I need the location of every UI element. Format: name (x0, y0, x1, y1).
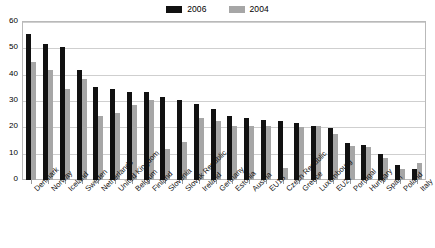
bar-group (258, 22, 275, 180)
bar-group (375, 22, 392, 180)
x-axis-label-cell: EU15 (258, 184, 275, 248)
x-axis-label-cell: Slovenia (157, 184, 174, 248)
x-axis-label-cell: Hungary (358, 184, 375, 248)
bar-2004 (65, 89, 70, 180)
bar-group (408, 22, 425, 180)
legend-item-2006: 2006 (166, 5, 206, 14)
chart-root: 2006 2004 0102030405060 DenmarkNorwayIce… (0, 0, 435, 248)
bar-group (90, 22, 107, 180)
bar-group (274, 22, 291, 180)
bar-group (341, 22, 358, 180)
bar-2004 (31, 62, 36, 180)
x-axis-labels: DenmarkNorwayIcelandSwedenNetherlandsUni… (23, 184, 425, 248)
bar-2004 (48, 70, 53, 180)
y-axis-tick-label: 30 (9, 96, 18, 104)
x-axis-label-cell: Netherlands (90, 184, 107, 248)
x-axis-label-cell: Denmark (23, 184, 40, 248)
legend-swatch-2006 (166, 6, 182, 13)
x-axis-label-cell: Estonia (224, 184, 241, 248)
bar-group (392, 22, 409, 180)
bar-group (107, 22, 124, 180)
x-axis-label-cell: Germany (207, 184, 224, 248)
x-axis-label-cell: Luxembourg (308, 184, 325, 248)
x-axis-label-cell: United Kingdom (107, 184, 124, 248)
x-axis-label-cell: Portugal (341, 184, 358, 248)
legend-label-2004: 2004 (250, 5, 269, 14)
y-axis-labels: 0102030405060 (0, 0, 22, 248)
x-axis-label-cell: Iceland (57, 184, 74, 248)
bar-group (40, 22, 57, 180)
x-axis-label-cell: Poland (392, 184, 409, 248)
legend-label-2006: 2006 (187, 5, 206, 14)
bar-group (174, 22, 191, 180)
x-axis-label-cell: Belgium (124, 184, 141, 248)
y-axis-tick-label: 0 (14, 175, 18, 183)
x-axis-label-cell: Greece (291, 184, 308, 248)
x-axis-label-cell: Austria (241, 184, 258, 248)
bar-2004 (82, 79, 87, 180)
y-axis-tick-label: 10 (9, 149, 18, 157)
x-axis-label-cell: EU27 (325, 184, 342, 248)
bar-group (241, 22, 258, 180)
bar-group (291, 22, 308, 180)
x-axis-label-cell: Ireland (191, 184, 208, 248)
x-axis-label-cell: Italy (408, 184, 425, 248)
chart-legend: 2006 2004 (0, 2, 435, 16)
bar-group (57, 22, 74, 180)
bar-group (124, 22, 141, 180)
bar-group (191, 22, 208, 180)
x-axis-label-cell: Finland (140, 184, 157, 248)
x-axis-label-cell: Norway (40, 184, 57, 248)
x-axis-label-cell: Czech Republic (274, 184, 291, 248)
x-axis-label-cell: Sweden (73, 184, 90, 248)
bar-group (358, 22, 375, 180)
legend-swatch-2004 (229, 6, 245, 13)
y-axis-tick-label: 50 (9, 43, 18, 51)
x-axis-label-cell: Slovak Republic (174, 184, 191, 248)
y-axis-tick-label: 60 (9, 17, 18, 25)
y-axis-tick-label: 20 (9, 122, 18, 130)
legend-item-2004: 2004 (229, 5, 269, 14)
x-axis-label-cell: Spain (375, 184, 392, 248)
bar-group (73, 22, 90, 180)
bar-group (23, 22, 40, 180)
y-axis-tick-label: 40 (9, 70, 18, 78)
